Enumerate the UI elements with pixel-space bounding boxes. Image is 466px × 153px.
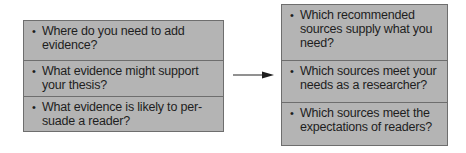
list-item: • What evidence might support your thesi…: [24, 60, 223, 96]
bullet-icon: •: [32, 100, 36, 114]
list-item: • Which recommended sources supply what …: [282, 5, 447, 60]
list-item: • Which sources meet the expectations of…: [282, 102, 447, 146]
left-question-box: • Where do you need to add evidence? • W…: [23, 20, 224, 132]
item-text: Where do you need to add evidence?: [42, 24, 185, 52]
bullet-icon: •: [290, 64, 294, 78]
right-question-box: • Which recommended sources supply what …: [281, 4, 448, 146]
bullet-icon: •: [290, 8, 294, 22]
right-arrow-icon: [233, 70, 274, 80]
bullet-icon: •: [32, 64, 36, 78]
bullet-icon: •: [32, 24, 36, 38]
list-item: • Where do you need to add evidence?: [24, 21, 223, 60]
item-text: Which sources meet the expectations of r…: [300, 106, 432, 134]
item-text: What evidence might support your thesis?: [42, 64, 199, 92]
list-item: • Which sources meet your needs as a res…: [282, 60, 447, 102]
item-text: Which recommended sources supply what yo…: [300, 8, 432, 50]
list-item: • What evidence is likely to per-suade a…: [24, 96, 223, 132]
bullet-icon: •: [290, 106, 294, 120]
item-text: Which sources meet your needs as a resea…: [300, 64, 436, 92]
item-text: What evidence is likely to per-suade a r…: [42, 100, 202, 128]
